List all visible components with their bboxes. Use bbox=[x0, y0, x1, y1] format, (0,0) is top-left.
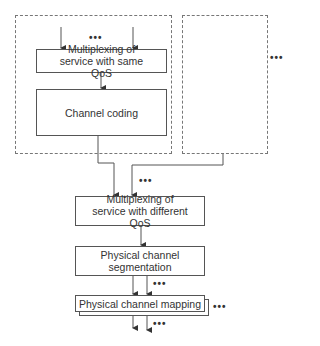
ellipsis-groups: ••• bbox=[270, 54, 284, 62]
channel-coding-block: Channel coding bbox=[36, 89, 167, 136]
mapping-block: Physical channel mapping bbox=[75, 295, 205, 312]
segmentation-block: Physical channel segmentation bbox=[75, 246, 205, 276]
mux-diff-qos-block: Multiplexing of service with different Q… bbox=[75, 196, 205, 226]
ellipsis-mux2-inputs: ••• bbox=[139, 177, 153, 185]
ellipsis-seg-outputs: ••• bbox=[153, 280, 167, 288]
ellipsis-outputs: ••• bbox=[153, 320, 167, 328]
mux-same-qos-block: Multiplexing of service with same QoS bbox=[36, 49, 167, 73]
ellipsis-mapping: ••• bbox=[213, 303, 227, 311]
ellipsis-inputs: ••• bbox=[89, 34, 103, 42]
